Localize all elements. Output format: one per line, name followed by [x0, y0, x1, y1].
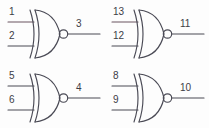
xnor-gate-1[interactable]: 1 2 3: [0, 0, 104, 64]
xnor-gate-symbol: [104, 64, 208, 128]
or-back-arc: [35, 74, 39, 122]
input-a-label: 5: [9, 71, 15, 81]
or-back-arc: [139, 74, 143, 122]
xor-arc: [30, 74, 34, 122]
input-a-label: 1: [9, 7, 15, 17]
input-a-label: 8: [113, 71, 119, 81]
xnor-gate-2[interactable]: 13 12 11: [104, 0, 208, 64]
xnor-gate-3[interactable]: 5 6 4: [0, 64, 104, 128]
xor-arc: [134, 10, 138, 58]
xor-arc: [30, 10, 34, 58]
input-a-label: 13: [113, 7, 124, 17]
output-label: 4: [76, 83, 82, 93]
xnor-gate-symbol: [0, 64, 104, 128]
input-b-label: 6: [9, 95, 15, 105]
input-b-label: 2: [9, 31, 15, 41]
xor-arc: [134, 74, 138, 122]
xnor-gate-symbol: [0, 0, 104, 64]
or-back-arc: [139, 10, 143, 58]
output-label: 10: [180, 83, 191, 93]
logic-gate-diagram: 1 2 3 13 12 11: [0, 0, 209, 128]
input-b-label: 9: [113, 95, 119, 105]
or-back-arc: [35, 10, 39, 58]
xnor-gate-4[interactable]: 8 9 10: [104, 64, 208, 128]
output-label: 3: [76, 19, 82, 29]
output-label: 11: [180, 19, 190, 29]
input-b-label: 12: [113, 31, 124, 41]
